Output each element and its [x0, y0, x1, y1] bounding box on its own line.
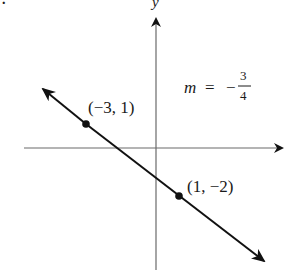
slope-denominator: 4 [240, 88, 247, 103]
line-segment [86, 124, 264, 261]
line-arrow-upper-left [43, 89, 86, 124]
slope-label: m = − 3 4 [184, 68, 251, 103]
slope-numerator: 3 [240, 68, 247, 83]
slope-equals: = [205, 78, 215, 97]
slope-sign: − [226, 78, 236, 97]
slope-variable: m [184, 78, 196, 97]
point-1-neg2 [175, 192, 183, 200]
y-axis-label: y [150, 0, 159, 10]
coordinate-plane: . y (−3, 1) (1, −2) m = − 3 4 [0, 0, 288, 270]
point-neg3-1 [82, 120, 90, 128]
point-label-neg3-1: (−3, 1) [88, 98, 134, 117]
point-label-1-neg2: (1, −2) [187, 177, 233, 196]
slope-diagram: . y (−3, 1) (1, −2) m = − 3 4 [0, 0, 288, 270]
part-label-fragment: . [2, 0, 6, 7]
